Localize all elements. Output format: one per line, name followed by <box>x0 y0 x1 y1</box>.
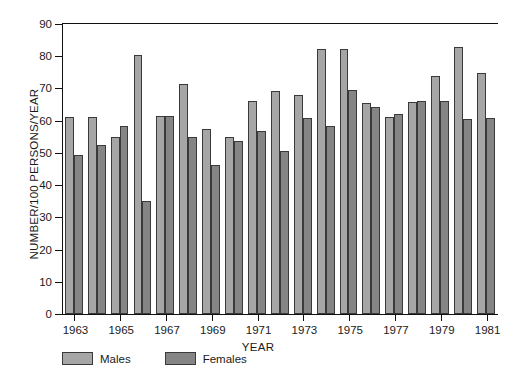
legend-label-males: Males <box>100 353 131 365</box>
x-tick-label-1965: 1965 <box>96 324 146 336</box>
bar-males-1981 <box>477 73 486 314</box>
bar-males-1968 <box>179 84 188 314</box>
bar-males-1966 <box>134 55 143 314</box>
y-tick-label-50: 50 <box>22 146 52 161</box>
bar-males-1977 <box>385 117 394 314</box>
bar-females-1975 <box>348 90 357 314</box>
x-tick-1967: 1967 <box>166 314 167 321</box>
y-tick-30: 30 <box>55 217 63 218</box>
bar-females-1967 <box>165 116 174 314</box>
bar-females-1966 <box>142 201 151 314</box>
bar-males-1974 <box>317 49 326 314</box>
x-tick-1975: 1975 <box>349 314 350 321</box>
legend-swatch-males <box>62 352 93 365</box>
y-tick-label-0: 0 <box>22 307 52 322</box>
x-tick-label-1969: 1969 <box>188 324 238 336</box>
y-tick-50: 50 <box>55 153 63 154</box>
bar-males-1969 <box>202 129 211 314</box>
chart-legend: Males Females <box>62 352 247 365</box>
bar-females-1963 <box>74 155 83 315</box>
y-tick-20: 20 <box>55 250 63 251</box>
plot-area: 0102030405060708090 19631965196719691971… <box>62 23 498 315</box>
bar-females-1965 <box>120 126 129 314</box>
y-tick-label-10: 10 <box>22 275 52 290</box>
x-tick-label-1975: 1975 <box>325 324 375 336</box>
bar-females-1971 <box>257 131 266 314</box>
y-tick-label-80: 80 <box>22 49 52 64</box>
bar-females-1979 <box>440 101 449 314</box>
bar-females-1974 <box>326 126 335 315</box>
legend-item-females: Females <box>165 352 247 365</box>
x-tick-label-1981: 1981 <box>463 324 513 336</box>
y-tick-40: 40 <box>55 185 63 186</box>
x-tick-label-1973: 1973 <box>279 324 329 336</box>
y-tick-label-90: 90 <box>22 17 52 32</box>
legend-swatch-females <box>165 352 196 365</box>
y-tick-80: 80 <box>55 56 63 57</box>
x-tick-label-1963: 1963 <box>50 324 100 336</box>
bar-females-1972 <box>280 151 289 314</box>
x-tick-label-1971: 1971 <box>234 324 284 336</box>
bar-males-1971 <box>248 101 257 314</box>
bar-females-1973 <box>303 118 312 314</box>
bar-females-1968 <box>188 137 197 314</box>
y-tick-label-30: 30 <box>22 210 52 225</box>
bars-layer <box>63 24 498 314</box>
bar-males-1979 <box>431 76 440 314</box>
x-tick-1965: 1965 <box>120 314 121 321</box>
bar-males-1964 <box>88 117 97 314</box>
bar-males-1965 <box>111 137 120 314</box>
x-tick-1973: 1973 <box>303 314 304 321</box>
bar-males-1970 <box>225 137 234 314</box>
bar-males-1967 <box>156 116 165 314</box>
y-tick-10: 10 <box>55 282 63 283</box>
x-tick-1969: 1969 <box>212 314 213 321</box>
bar-females-1969 <box>211 165 220 314</box>
legend-label-females: Females <box>203 353 247 365</box>
legend-item-males: Males <box>62 352 131 365</box>
bar-females-1981 <box>486 118 495 314</box>
x-tick-1981: 1981 <box>487 314 488 321</box>
bar-males-1972 <box>271 91 280 314</box>
bar-males-1978 <box>408 102 417 314</box>
bar-chart-figure: NUMBER/100 PERSONS/YEAR 0102030405060708… <box>0 0 516 376</box>
y-tick-label-70: 70 <box>22 81 52 96</box>
y-tick-label-40: 40 <box>22 178 52 193</box>
bar-females-1978 <box>417 101 426 314</box>
x-tick-label-1979: 1979 <box>417 324 467 336</box>
bar-males-1975 <box>340 49 349 314</box>
bar-females-1964 <box>97 145 106 314</box>
bar-males-1963 <box>65 117 74 314</box>
bar-females-1977 <box>394 114 403 314</box>
y-tick-70: 70 <box>55 88 63 89</box>
y-tick-label-20: 20 <box>22 243 52 258</box>
x-tick-label-1977: 1977 <box>371 324 421 336</box>
y-tick-90: 90 <box>55 24 63 25</box>
x-tick-label-1967: 1967 <box>142 324 192 336</box>
bar-males-1976 <box>362 103 371 314</box>
bar-females-1970 <box>234 141 243 314</box>
bar-females-1976 <box>371 107 380 314</box>
bar-males-1973 <box>294 95 303 314</box>
bar-males-1980 <box>454 47 463 314</box>
x-tick-1977: 1977 <box>395 314 396 321</box>
x-tick-1971: 1971 <box>258 314 259 321</box>
bar-females-1980 <box>463 119 472 314</box>
y-tick-60: 60 <box>55 121 63 122</box>
y-tick-0: 0 <box>55 314 63 315</box>
y-tick-label-60: 60 <box>22 114 52 129</box>
x-tick-1979: 1979 <box>441 314 442 321</box>
x-tick-1963: 1963 <box>74 314 75 321</box>
